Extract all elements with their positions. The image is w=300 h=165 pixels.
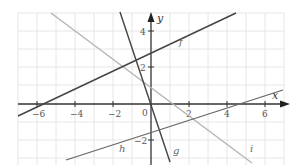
x-tick-label: −6: [32, 109, 46, 119]
y-axis-label: y: [156, 12, 164, 25]
coordinate-plane: −6 −4 −2 2 4 6 4 2 −2 0 x y f g h i: [0, 0, 300, 165]
label-h: h: [119, 143, 125, 154]
y-tick-label: 2: [140, 63, 146, 73]
line-f: [18, 13, 236, 116]
label-i: i: [250, 143, 253, 154]
x-tick-label: 6: [262, 109, 268, 119]
y-tick-label: 4: [140, 27, 146, 37]
origin-label: 0: [142, 108, 148, 118]
x-tick-label: −2: [108, 109, 121, 119]
x-axis-arrow-icon: [280, 101, 290, 108]
x-tick-label: −4: [70, 109, 84, 119]
x-tick-label: 4: [224, 109, 230, 119]
label-g: g: [173, 145, 179, 156]
